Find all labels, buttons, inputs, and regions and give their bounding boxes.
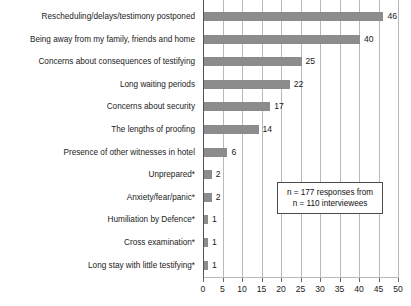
bar-value-label: 40 (364, 35, 374, 44)
annotation-box: n = 177 responses from n = 110 interview… (277, 182, 383, 214)
x-axis-tick-mark (301, 278, 302, 282)
x-axis-tick-label: 25 (291, 284, 311, 294)
bar (204, 215, 208, 224)
x-axis-tick-label: 10 (232, 284, 252, 294)
bar-value-label: 17 (274, 102, 284, 111)
category-label: Long waiting periods (0, 80, 195, 89)
category-label: Rescheduling/delays/testimony postponed (0, 12, 195, 21)
bar (204, 193, 212, 202)
category-label: Cross examination* (0, 238, 195, 247)
bar-value-label: 46 (387, 12, 397, 21)
category-label: Anxiety/fear/panic* (0, 193, 195, 202)
x-axis-tick-mark (223, 278, 224, 282)
bar-chart: Rescheduling/delays/testimony postponedB… (0, 0, 411, 306)
bar (204, 35, 360, 44)
category-axis-labels: Rescheduling/delays/testimony postponedB… (0, 0, 199, 278)
gridline (398, 0, 399, 278)
bar-value-label: 25 (306, 57, 316, 66)
x-axis-tick-mark (281, 278, 282, 282)
category-label: Unprepared* (0, 170, 195, 179)
x-axis-tick-label: 35 (330, 284, 350, 294)
x-axis-tick-mark (320, 278, 321, 282)
annotation-line-2: n = 110 interviewees (281, 198, 379, 209)
bar-value-label: 1 (212, 238, 217, 247)
bar-value-label: 22 (294, 80, 304, 89)
bar-value-label: 2 (216, 193, 221, 202)
bar (204, 57, 302, 66)
bar-value-label: 14 (263, 125, 273, 134)
bar (204, 80, 290, 89)
x-axis-tick-label: 15 (252, 284, 272, 294)
x-axis-tick-mark (203, 278, 204, 282)
x-axis-tick-label: 40 (349, 284, 369, 294)
plot-area: 464025221714622111 (203, 0, 398, 278)
x-axis-tick-label: 50 (388, 284, 408, 294)
bar (204, 261, 208, 270)
bar-value-label: 2 (216, 170, 221, 179)
x-axis-tick-label: 0 (193, 284, 213, 294)
x-axis: 05101520253035404550 (203, 278, 398, 306)
x-axis-tick-mark (359, 278, 360, 282)
category-label: Being away from my family, friends and h… (0, 35, 195, 44)
x-axis-tick-mark (379, 278, 380, 282)
gridline (379, 0, 380, 278)
bar-value-label: 1 (212, 215, 217, 224)
category-label: Presence of other witnesses in hotel (0, 148, 195, 157)
x-axis-tick-label: 5 (213, 284, 233, 294)
x-axis-tick-label: 45 (369, 284, 389, 294)
bar (204, 125, 259, 134)
x-axis-tick-mark (242, 278, 243, 282)
bar (204, 148, 227, 157)
x-axis-tick-mark (398, 278, 399, 282)
category-label: Concerns about security (0, 102, 195, 111)
bar (204, 12, 383, 21)
x-axis-tick-mark (340, 278, 341, 282)
bar (204, 170, 212, 179)
bar (204, 238, 208, 247)
category-label: Concerns about consequences of testifyin… (0, 57, 195, 66)
bar-value-label: 1 (212, 261, 217, 270)
x-axis-tick-mark (262, 278, 263, 282)
category-label: Humiliation by Defence* (0, 215, 195, 224)
x-axis-tick-label: 20 (271, 284, 291, 294)
bar-value-label: 6 (231, 148, 236, 157)
annotation-line-1: n = 177 responses from (281, 187, 379, 198)
category-label: Long stay with little testifying* (0, 261, 195, 270)
category-label: The lengths of proofing (0, 125, 195, 134)
x-axis-tick-label: 30 (310, 284, 330, 294)
bar (204, 102, 270, 111)
